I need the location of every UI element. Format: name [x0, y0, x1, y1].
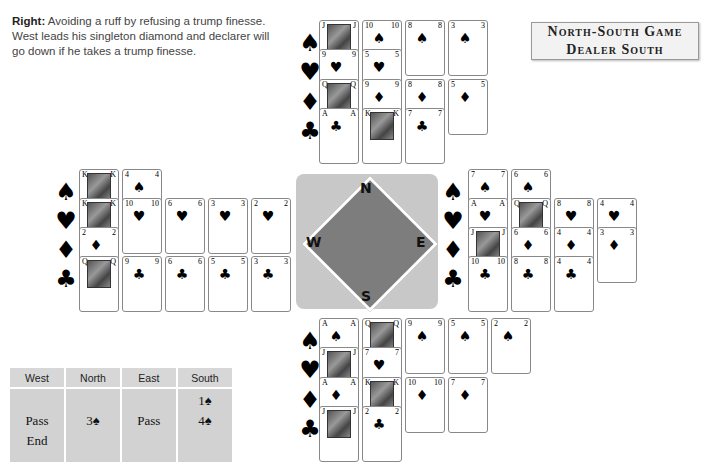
card-rank: 4 — [587, 258, 591, 266]
diamonds-pip-icon: ♦ — [320, 388, 358, 402]
diamonds-pip-icon: ♦ — [363, 90, 401, 104]
auction-header-east: East — [121, 368, 177, 388]
card-rank: 9 — [395, 81, 399, 89]
playing-card: 44♣ — [554, 256, 594, 312]
card-rank: A — [322, 320, 328, 328]
card-rank: 2 — [112, 229, 116, 237]
diamonds-suit-icon: ♦ — [53, 237, 79, 263]
hearts-suit-icon: ♥ — [53, 208, 79, 234]
playing-card: 22♥ — [251, 198, 291, 254]
card-rank: 10 — [365, 22, 373, 30]
bid: 1♠ — [178, 391, 232, 411]
card-rank: 7 — [481, 379, 485, 387]
playing-card: 33♣ — [251, 256, 291, 312]
bid — [66, 391, 120, 411]
card-rank: 7 — [408, 110, 412, 118]
card-rank: 3 — [481, 22, 485, 30]
card-rank: 4 — [155, 171, 159, 179]
playing-card: 33♠ — [448, 20, 488, 76]
bid — [122, 431, 176, 451]
court-card-art-icon — [87, 260, 111, 288]
caption-bold: Right: — [12, 15, 45, 27]
hearts-pip-icon: ♥ — [598, 209, 636, 223]
hearts-pip-icon: ♥ — [363, 358, 401, 372]
card-rank: 8 — [514, 258, 518, 266]
compass: N S W E — [296, 174, 438, 309]
card-rank: J — [353, 22, 356, 30]
card-rank: 6 — [168, 258, 172, 266]
card-rank: 9 — [125, 258, 129, 266]
card-rank: K — [110, 200, 116, 208]
playing-card: 66♣ — [165, 256, 205, 312]
card-rank: 5 — [211, 258, 215, 266]
court-card-art-icon — [327, 410, 351, 438]
card-rank: 10 — [434, 379, 442, 387]
card-rank: 3 — [241, 200, 245, 208]
card-rank: J — [322, 349, 325, 357]
auction-col-west: Pass End — [10, 388, 65, 462]
card-rank: 3 — [630, 229, 634, 237]
card-rank: 7 — [438, 110, 442, 118]
card-rank: 2 — [365, 408, 369, 416]
court-card-art-icon — [370, 112, 394, 140]
clubs-pip-icon: ♣ — [555, 267, 593, 281]
playing-card: AA♣ — [319, 108, 359, 164]
card-rank: A — [499, 200, 505, 208]
card-rank: Q — [110, 258, 116, 266]
spades-pip-icon: ♠ — [469, 180, 507, 194]
spades-suit-icon: ♠ — [53, 179, 79, 205]
card-rank: J — [322, 22, 325, 30]
card-rank: 5 — [365, 51, 369, 59]
court-card-art-icon — [476, 231, 500, 259]
hearts-pip-icon: ♥ — [320, 60, 358, 74]
playing-card: KK — [362, 108, 402, 164]
card-rank: 5 — [241, 258, 245, 266]
card-rank: 8 — [557, 200, 561, 208]
card-rank: A — [350, 110, 356, 118]
spades-pip-icon: ♠ — [449, 31, 487, 45]
card-rank: 10 — [497, 258, 505, 266]
card-rank: 8 — [438, 81, 442, 89]
diamonds-pip-icon: ♦ — [449, 388, 487, 402]
playing-card: 22♠ — [491, 318, 531, 374]
card-rank: 4 — [630, 200, 634, 208]
card-rank: A — [471, 200, 477, 208]
spades-pip-icon: ♠ — [406, 329, 444, 343]
card-rank: 7 — [501, 171, 505, 179]
card-rank: 3 — [451, 22, 455, 30]
hearts-pip-icon: ♥ — [123, 209, 161, 223]
card-rank: 5 — [481, 320, 485, 328]
dealer-label: Dealer South — [566, 41, 663, 59]
clubs-pip-icon: ♣ — [209, 267, 247, 281]
hearts-pip-icon: ♥ — [363, 60, 401, 74]
card-rank: 7 — [395, 349, 399, 357]
court-card-art-icon — [327, 83, 351, 111]
court-card-art-icon — [87, 173, 111, 201]
card-rank: 8 — [408, 81, 412, 89]
spades-pip-icon: ♠ — [320, 329, 358, 343]
bid — [122, 391, 176, 411]
playing-card: 88♠ — [405, 20, 445, 76]
clubs-pip-icon: ♣ — [469, 267, 507, 281]
playing-card: 33♦ — [597, 227, 637, 283]
diamonds-pip-icon: ♦ — [598, 238, 636, 252]
bid — [10, 391, 64, 411]
card-rank: Q — [542, 200, 548, 208]
card-rank: 5 — [481, 81, 485, 89]
card-rank: 10 — [391, 22, 399, 30]
card-rank: J — [353, 349, 356, 357]
bid — [66, 431, 120, 451]
card-rank: 10 — [471, 258, 479, 266]
playing-card: 77♣ — [405, 108, 445, 164]
playing-card: 88♣ — [511, 256, 551, 312]
clubs-pip-icon: ♣ — [406, 119, 444, 133]
playing-card: 55♦ — [448, 79, 488, 135]
card-rank: 8 — [408, 22, 412, 30]
diamonds-pip-icon: ♦ — [406, 388, 444, 402]
clubs-pip-icon: ♣ — [512, 267, 550, 281]
card-rank: 5 — [451, 81, 455, 89]
court-card-art-icon — [327, 24, 351, 52]
card-rank: 4 — [587, 229, 591, 237]
clubs-suit-icon: ♣ — [440, 266, 466, 292]
card-rank: 6 — [198, 258, 202, 266]
